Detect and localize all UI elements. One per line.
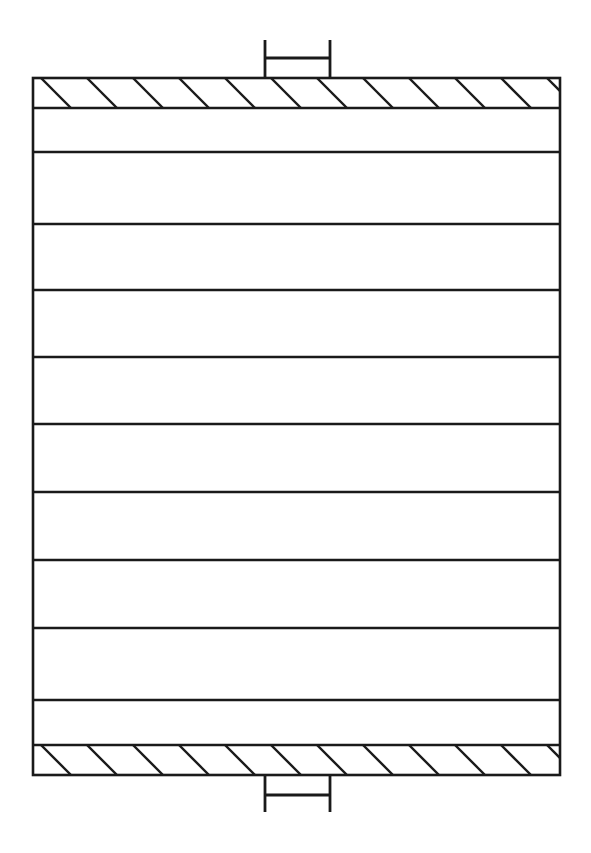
diagram-root: Layered Panel Cross-Section Engineering … [0, 0, 591, 853]
hatch-stroke [0, 78, 25, 108]
cross-section-drawing: Layered Panel Cross-Section Engineering … [0, 0, 591, 853]
bottom-terminal [265, 775, 330, 812]
hatch-stroke [0, 745, 25, 775]
panel-body-fill [33, 78, 560, 775]
top-terminal [265, 40, 330, 78]
